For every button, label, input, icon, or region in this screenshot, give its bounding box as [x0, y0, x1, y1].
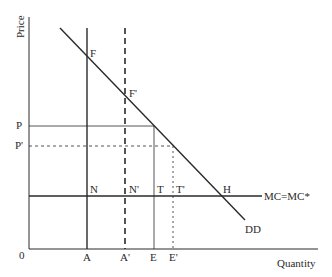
quantity-label-a-prime: A': [120, 251, 130, 263]
price-label-p: P: [16, 119, 22, 131]
point-label-n: N: [90, 183, 98, 195]
y-axis-label: Price: [14, 15, 26, 38]
price-label-p-prime: P': [15, 139, 23, 151]
point-label-t-prime: T': [176, 183, 185, 195]
quantity-label-e-prime: E': [169, 251, 178, 263]
demand-curve: [60, 28, 245, 220]
quantity-label-a: A: [83, 251, 91, 263]
origin-label: 0: [19, 249, 25, 261]
x-axis-label: Quantity: [277, 257, 316, 269]
curve-label-mc: MC=MC*: [264, 190, 310, 202]
point-label-f: F: [90, 47, 96, 59]
quantity-label-e: E: [150, 251, 157, 263]
point-label-n-prime: N': [129, 183, 139, 195]
curve-label-demand: DD: [245, 223, 261, 235]
point-label-h: H: [223, 183, 231, 195]
economics-diagram: Price Quantity 0 P P' A A' E E' F F' N N…: [0, 0, 332, 277]
point-label-f-prime: F': [129, 87, 137, 99]
point-label-t: T: [157, 183, 164, 195]
